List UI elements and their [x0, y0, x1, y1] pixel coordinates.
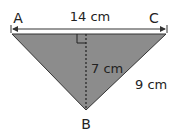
base-length-label: 14 cm: [70, 9, 111, 24]
vertex-label-a: A: [13, 10, 23, 26]
triangle-abc: [12, 34, 166, 110]
side-bc-length-label: 9 cm: [135, 77, 167, 92]
vertex-label-b: B: [81, 116, 91, 132]
height-length-label: 7 cm: [91, 61, 123, 76]
triangle-diagram: A C B 14 cm 7 cm 9 cm: [0, 0, 176, 139]
vertex-label-c: C: [149, 10, 159, 26]
